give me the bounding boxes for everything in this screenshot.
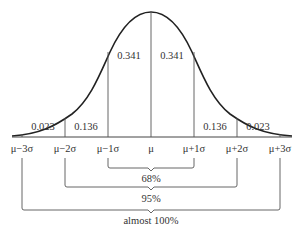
region-value: 0.341 xyxy=(160,50,184,61)
region-value: 0.341 xyxy=(117,50,141,61)
region-value: 0.023 xyxy=(31,121,55,132)
bracket-label-100: almost 100% xyxy=(123,215,178,226)
region-value: 0.136 xyxy=(74,121,98,132)
bell-curve xyxy=(12,12,292,136)
tick-label: μ+2σ xyxy=(226,143,249,154)
bracket-label-68: 68% xyxy=(141,173,161,184)
bracket-label-95: 95% xyxy=(141,193,161,204)
sigma-lines xyxy=(22,12,280,137)
bracket-100 xyxy=(22,158,280,213)
region-value: 0.136 xyxy=(203,121,227,132)
tick-label: μ−2σ xyxy=(54,143,77,154)
normal-distribution-diagram: 0.023 0.136 0.341 0.341 0.136 0.023 μ−3σ… xyxy=(0,0,300,233)
bracket-68 xyxy=(108,158,194,171)
tick-label: μ xyxy=(148,143,154,154)
tick-label: μ+3σ xyxy=(269,143,292,154)
region-value: 0.023 xyxy=(246,121,270,132)
tick-label: μ−1σ xyxy=(97,143,120,154)
tick-label: μ+1σ xyxy=(183,143,206,154)
tick-label: μ−3σ xyxy=(11,143,34,154)
